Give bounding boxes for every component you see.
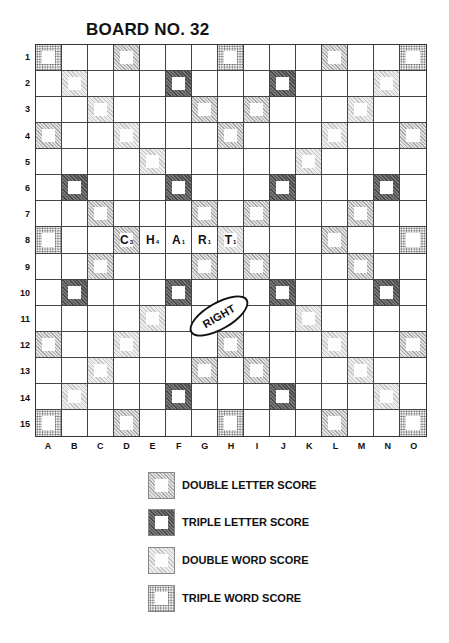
board-cell-c5[interactable] [88, 149, 114, 175]
board-cell-c7[interactable] [88, 201, 114, 227]
board-cell-b1[interactable] [62, 45, 88, 71]
board-cell-f5[interactable] [166, 149, 192, 175]
board-cell-b12[interactable] [62, 332, 88, 358]
board-cell-e2[interactable] [140, 71, 166, 97]
board-cell-j14[interactable] [270, 384, 296, 410]
board-cell-l13[interactable] [322, 358, 348, 384]
board-cell-j3[interactable] [270, 97, 296, 123]
board-cell-f8[interactable]: A1 [166, 227, 192, 253]
board-cell-c2[interactable] [88, 71, 114, 97]
board-cell-i13[interactable] [244, 358, 270, 384]
board-cell-g1[interactable] [192, 45, 218, 71]
board-cell-n11[interactable] [374, 306, 400, 332]
board-cell-l9[interactable] [322, 254, 348, 280]
board-cell-j1[interactable] [270, 45, 296, 71]
board-cell-e3[interactable] [140, 97, 166, 123]
board-cell-i11[interactable] [244, 306, 270, 332]
board-cell-o12[interactable] [400, 332, 426, 358]
board-cell-h12[interactable] [218, 332, 244, 358]
board-cell-b4[interactable] [62, 123, 88, 149]
board-cell-f2[interactable] [166, 71, 192, 97]
board-cell-l2[interactable] [322, 71, 348, 97]
board-cell-m7[interactable] [348, 201, 374, 227]
board-cell-e13[interactable] [140, 358, 166, 384]
board-cell-b2[interactable] [62, 71, 88, 97]
board-cell-o7[interactable] [400, 201, 426, 227]
board-cell-o5[interactable] [400, 149, 426, 175]
board-cell-e12[interactable] [140, 332, 166, 358]
board-cell-d10[interactable] [114, 280, 140, 306]
board-cell-a8[interactable] [36, 227, 62, 253]
board-cell-e1[interactable] [140, 45, 166, 71]
board-cell-k5[interactable] [296, 149, 322, 175]
board-cell-l6[interactable] [322, 175, 348, 201]
board-cell-m4[interactable] [348, 123, 374, 149]
board-cell-l10[interactable] [322, 280, 348, 306]
board-cell-d9[interactable] [114, 254, 140, 280]
board-cell-e11[interactable] [140, 306, 166, 332]
board-cell-c12[interactable] [88, 332, 114, 358]
board-cell-n6[interactable] [374, 175, 400, 201]
board-cell-o11[interactable] [400, 306, 426, 332]
board-cell-a7[interactable] [36, 201, 62, 227]
board-cell-c14[interactable] [88, 384, 114, 410]
board-cell-m13[interactable] [348, 358, 374, 384]
board-cell-k9[interactable] [296, 254, 322, 280]
board-cell-b15[interactable] [62, 410, 88, 436]
board-cell-m3[interactable] [348, 97, 374, 123]
board-cell-o6[interactable] [400, 175, 426, 201]
board-cell-c10[interactable] [88, 280, 114, 306]
board-cell-d8[interactable]: C3 [114, 227, 140, 253]
board-cell-j10[interactable] [270, 280, 296, 306]
board-cell-b13[interactable] [62, 358, 88, 384]
board-cell-g2[interactable] [192, 71, 218, 97]
board-cell-h4[interactable] [218, 123, 244, 149]
board-cell-n1[interactable] [374, 45, 400, 71]
board-cell-c15[interactable] [88, 410, 114, 436]
board-cell-l7[interactable] [322, 201, 348, 227]
board-cell-l14[interactable] [322, 384, 348, 410]
board-cell-m8[interactable] [348, 227, 374, 253]
board-cell-o3[interactable] [400, 97, 426, 123]
board-cell-a11[interactable] [36, 306, 62, 332]
board-cell-n3[interactable] [374, 97, 400, 123]
board-cell-j13[interactable] [270, 358, 296, 384]
board-cell-b8[interactable] [62, 227, 88, 253]
board-cell-f13[interactable] [166, 358, 192, 384]
board-cell-n13[interactable] [374, 358, 400, 384]
board-cell-i8[interactable] [244, 227, 270, 253]
board-cell-n12[interactable] [374, 332, 400, 358]
board-cell-l11[interactable] [322, 306, 348, 332]
board-cell-d5[interactable] [114, 149, 140, 175]
board-cell-b10[interactable] [62, 280, 88, 306]
board-cell-g4[interactable] [192, 123, 218, 149]
board-cell-m9[interactable] [348, 254, 374, 280]
board-cell-l15[interactable] [322, 410, 348, 436]
board-cell-a12[interactable] [36, 332, 62, 358]
board-cell-n7[interactable] [374, 201, 400, 227]
board-cell-d12[interactable] [114, 332, 140, 358]
board-cell-h7[interactable] [218, 201, 244, 227]
board-cell-e14[interactable] [140, 384, 166, 410]
board-cell-m10[interactable] [348, 280, 374, 306]
board-cell-d11[interactable] [114, 306, 140, 332]
board-cell-j6[interactable] [270, 175, 296, 201]
board-cell-a14[interactable] [36, 384, 62, 410]
board-cell-a3[interactable] [36, 97, 62, 123]
board-cell-f4[interactable] [166, 123, 192, 149]
board-cell-i14[interactable] [244, 384, 270, 410]
board-cell-e8[interactable]: H4 [140, 227, 166, 253]
board-cell-a5[interactable] [36, 149, 62, 175]
board-cell-f9[interactable] [166, 254, 192, 280]
board-cell-g14[interactable] [192, 384, 218, 410]
board-cell-c3[interactable] [88, 97, 114, 123]
board-cell-h2[interactable] [218, 71, 244, 97]
board-cell-k8[interactable] [296, 227, 322, 253]
board-cell-j5[interactable] [270, 149, 296, 175]
board-cell-i15[interactable] [244, 410, 270, 436]
board-cell-g6[interactable] [192, 175, 218, 201]
board-cell-k11[interactable] [296, 306, 322, 332]
board-cell-d14[interactable] [114, 384, 140, 410]
board-cell-m5[interactable] [348, 149, 374, 175]
board-cell-g15[interactable] [192, 410, 218, 436]
